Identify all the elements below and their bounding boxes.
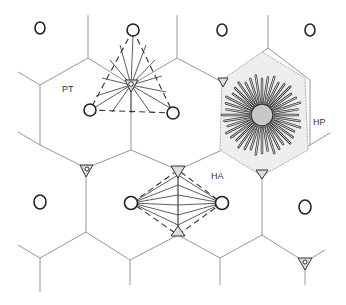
central-vein-icon	[251, 104, 273, 126]
central-vein-icon	[127, 24, 139, 36]
central-vein-icon	[34, 195, 46, 209]
portal-triad-icon	[256, 170, 268, 179]
portal-triangle	[84, 24, 179, 119]
central-vein-icon	[216, 197, 229, 210]
central-vein-icon	[167, 107, 179, 119]
central-vein-icon	[299, 200, 311, 214]
hepatic-lobule	[218, 52, 308, 179]
central-vein-icon	[305, 24, 315, 36]
central-vein-icon	[217, 24, 227, 36]
label-portal-triangle: PT	[62, 84, 74, 94]
label-hepatic-lobule: HP	[313, 117, 326, 127]
central-vein-icon	[35, 22, 45, 34]
central-vein-icon	[84, 104, 96, 116]
liver-lobule-diagram	[0, 0, 346, 305]
central-vein-icon	[125, 197, 138, 210]
portal-triad-icon	[171, 166, 185, 178]
label-hepatic-acinus: HA	[211, 171, 224, 181]
